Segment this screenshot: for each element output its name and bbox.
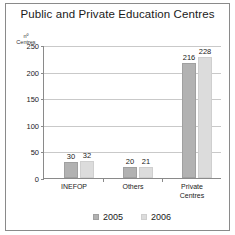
- y-tick-mark-250: [41, 46, 44, 47]
- gridline-250: [44, 46, 221, 47]
- legend-swatch-2006-icon: [141, 214, 147, 220]
- y-axis-title-line1: nº: [23, 33, 28, 39]
- x-tick-1: [103, 178, 104, 182]
- legend-label-2006: 2006: [151, 212, 171, 222]
- bar-others-2005[interactable]: 20: [123, 167, 137, 178]
- chart-container: Public and Private Education Centres nº …: [0, 0, 235, 235]
- y-tick-mark-100: [41, 126, 44, 127]
- y-tick-mark-0: [41, 179, 44, 180]
- y-tick-label-150: 150: [26, 95, 39, 104]
- bar-value-others-2005: 20: [126, 157, 134, 166]
- bar-inefop-2005[interactable]: 30: [64, 162, 78, 178]
- bar-value-inefop-2006: 32: [83, 151, 91, 160]
- x-axis-label-inefop: INEFOP: [44, 183, 104, 192]
- bar-private-centres-2005[interactable]: 216: [182, 63, 196, 178]
- plot-area: 250 200 150 100 50 0 30 32 20 21: [43, 46, 221, 179]
- y-tick-label-250: 250: [26, 42, 39, 51]
- y-tick-mark-150: [41, 99, 44, 100]
- bar-inefop-2006[interactable]: 32: [80, 161, 94, 178]
- bar-others-2006[interactable]: 21: [139, 167, 153, 178]
- x-tick-2: [162, 178, 163, 182]
- x-axis-label-others: Others: [103, 183, 163, 192]
- y-tick-label-100: 100: [26, 121, 39, 130]
- legend-item-2006[interactable]: 2006: [141, 212, 171, 222]
- bar-value-others-2006: 21: [142, 157, 150, 166]
- bar-private-centres-2006[interactable]: 228: [198, 57, 212, 178]
- legend-swatch-2005-icon: [93, 214, 99, 220]
- bar-value-inefop-2005: 30: [67, 152, 75, 161]
- x-axis-label-private-centres: Private Centres: [162, 183, 222, 200]
- y-tick-mark-50: [41, 152, 44, 153]
- bar-value-private-centres-2006: 228: [199, 47, 212, 56]
- y-tick-label-200: 200: [26, 68, 39, 77]
- chart-title: Public and Private Education Centres: [8, 8, 227, 20]
- y-tick-mark-200: [41, 73, 44, 74]
- bar-value-private-centres-2005: 216: [183, 53, 196, 62]
- y-tick-label-50: 50: [31, 148, 39, 157]
- chart-legend: 2005 2006: [43, 212, 221, 222]
- legend-item-2005[interactable]: 2005: [93, 212, 123, 222]
- legend-label-2005: 2005: [103, 212, 123, 222]
- y-tick-label-0: 0: [35, 175, 39, 184]
